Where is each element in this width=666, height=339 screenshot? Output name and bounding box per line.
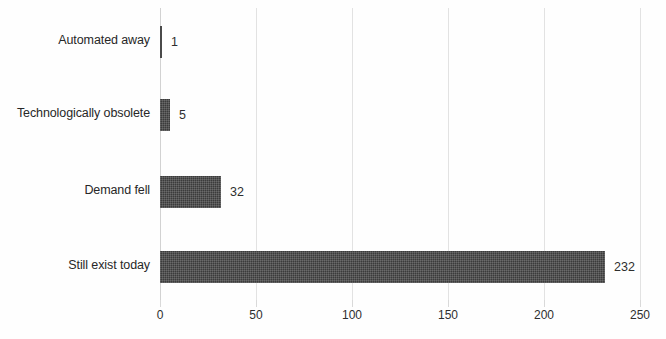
x-tick-100 xyxy=(352,300,353,307)
x-tick-250 xyxy=(640,300,641,307)
category-label-automated-away: Automated away xyxy=(10,34,160,47)
bar-still-exist-today xyxy=(160,251,605,283)
bar-value-technologically-obsolete: 5 xyxy=(179,109,186,122)
bar-demand-fell xyxy=(160,176,221,208)
gridline-250 xyxy=(640,8,641,300)
bar-chart: Automated away Technologically obsolete … xyxy=(0,0,666,339)
x-tick-label-250: 250 xyxy=(630,309,650,321)
category-axis: Automated away Technologically obsolete … xyxy=(0,8,160,300)
bar-value-demand-fell: 32 xyxy=(230,186,244,199)
category-label-technologically-obsolete: Technologically obsolete xyxy=(10,107,160,120)
x-tick-label-150: 150 xyxy=(438,309,458,321)
plot-area: 1 5 32 232 xyxy=(160,8,640,300)
bar-value-still-exist-today: 232 xyxy=(614,261,635,274)
x-tick-label-50: 50 xyxy=(249,309,262,321)
bar-technologically-obsolete xyxy=(160,99,170,131)
x-axis: 0 50 100 150 200 250 xyxy=(160,300,640,330)
x-tick-50 xyxy=(256,300,257,307)
x-tick-label-200: 200 xyxy=(534,309,554,321)
bar-automated-away xyxy=(160,26,162,58)
x-tick-150 xyxy=(448,300,449,307)
bar-value-automated-away: 1 xyxy=(171,36,178,49)
x-tick-label-0: 0 xyxy=(157,309,164,321)
x-tick-200 xyxy=(544,300,545,307)
category-label-demand-fell: Demand fell xyxy=(10,184,160,197)
category-label-still-exist-today: Still exist today xyxy=(10,259,160,272)
x-tick-label-100: 100 xyxy=(342,309,362,321)
x-tick-0 xyxy=(160,300,161,307)
